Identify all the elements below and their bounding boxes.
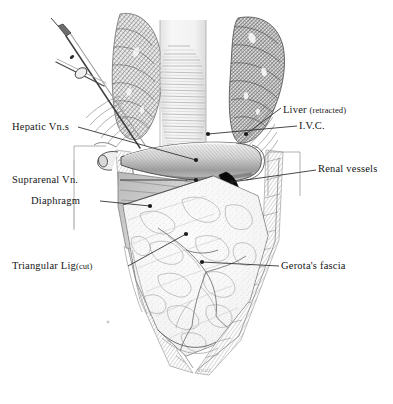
label-suprarenal-vein: Suprarenal Vn. [12,175,78,186]
vertebral-column [160,20,206,148]
dot-renal-vessels [230,180,234,184]
label-liver: Liver (retracted) [283,105,346,116]
label-diaphragm: Diaphragm [31,196,80,207]
gerota-fascia-mass [118,170,278,362]
dot-suprarenal-vein [194,178,198,182]
dot-hepatic-veins [194,158,198,162]
dot-diaphragm [148,204,152,208]
left-muscle-mass [86,13,162,147]
label-diaphragm-text: Diaphragm [31,195,80,206]
label-gerota-fascia: Gerota's fascia [281,261,346,272]
label-liver-text: Liver [283,104,307,115]
artist-signature: Anat. [196,366,212,374]
dot-liver [244,132,248,136]
label-triangular-ligament-text: Triangular Lig [12,260,76,271]
field-stipple-mark [107,321,110,324]
label-suprarenal-vein-text: Suprarenal Vn. [12,174,78,185]
anatomical-figure: Hepatic Vn.s Suprarenal Vn. Diaphragm Tr… [0,0,393,404]
label-liver-note: (retracted) [310,105,347,115]
label-ivc-text: I.V.C. [299,120,325,131]
label-renal-vessels-text: Renal vessels [318,163,377,174]
label-triangular-ligament: Triangular Lig(cut) [12,261,93,272]
dot-ivc [206,132,210,136]
label-ivc: I.V.C. [299,121,325,132]
hepatic-vein-stumps [94,143,118,171]
label-triangular-ligament-note: (cut) [76,261,93,271]
label-gerota-fascia-text: Gerota's fascia [281,260,346,271]
dot-gerota-fascia [200,260,204,264]
dot-triangular-ligament [184,232,188,236]
label-hepatic-veins: Hepatic Vn.s [12,122,69,133]
label-hepatic-veins-text: Hepatic Vn.s [12,121,69,132]
label-renal-vessels: Renal vessels [318,164,377,175]
